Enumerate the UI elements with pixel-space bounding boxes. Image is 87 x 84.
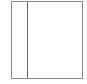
outer-rectangle xyxy=(11,1,83,79)
vertical-divider xyxy=(27,2,28,78)
